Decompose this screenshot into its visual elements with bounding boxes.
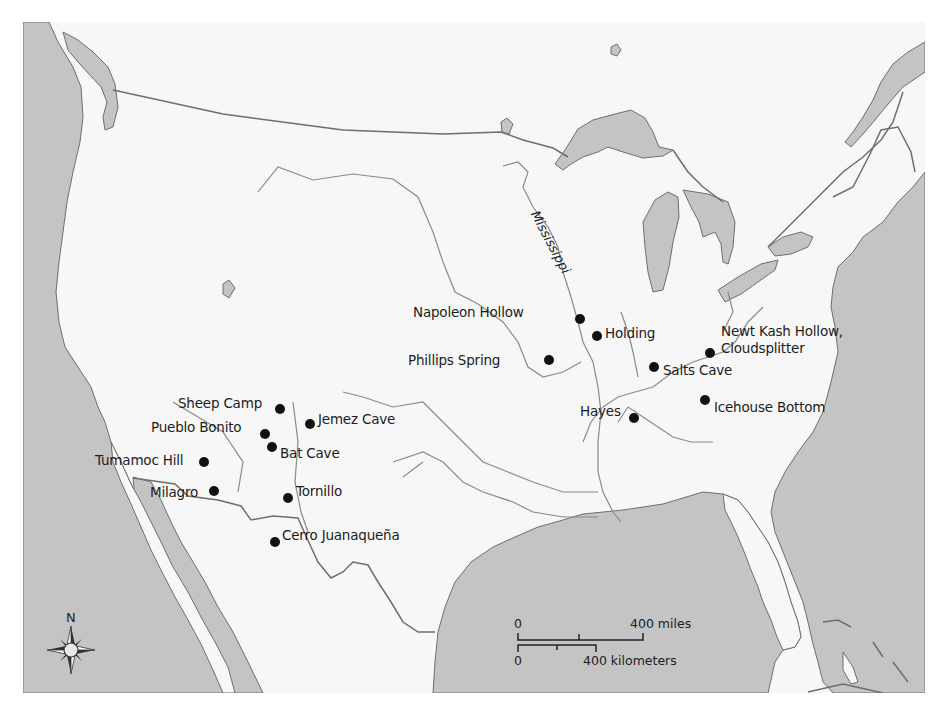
site-marker-salts-cave[interactable] [649,362,659,372]
site-label-newt-kash-hollow: Newt Kash Hollow, [721,324,843,339]
scale-km-zero: 0 [514,653,522,668]
site-marker-jemez-cave[interactable] [305,419,315,429]
site-label-jemez-cave: Jemez Cave [318,412,395,427]
site-label-holding: Holding [605,326,655,341]
site-marker-cerro-juanaquena[interactable] [270,537,280,547]
site-label-hayes: Hayes [580,404,621,419]
scale-km-label: 400 kilometers [583,653,677,668]
site-marker-hayes[interactable] [629,413,639,423]
site-marker-milagro[interactable] [209,486,219,496]
site-marker-tornillo[interactable] [283,493,293,503]
site-marker-holding[interactable] [592,331,602,341]
site-label-sheep-camp: Sheep Camp [178,396,262,411]
site-marker-icehouse-bottom[interactable] [700,395,710,405]
site-marker-bat-cave[interactable] [267,442,277,452]
site-label-milagro: Milagro [150,485,198,500]
map-frame: Mississippi Napoleon Hollow Holding Newt… [23,22,925,693]
site-label-tumamoc-hill: Tumamoc Hill [95,453,183,468]
site-label-cloudsplitter: Cloudsplitter [721,341,805,356]
site-label-phillips-spring: Phillips Spring [408,353,500,368]
site-label-icehouse-bottom: Icehouse Bottom [714,400,825,415]
site-label-cerro-juanaquena: Cerro Juanaqueña [282,528,400,543]
scale-miles-zero: 0 [514,616,522,631]
site-marker-napoleon-hollow[interactable] [575,314,585,324]
site-marker-tumamoc-hill[interactable] [199,457,209,467]
compass-north-label: N [66,610,76,625]
site-label-napoleon-hollow: Napoleon Hollow [413,305,524,320]
site-label-tornillo: Tornillo [296,484,342,499]
site-label-bat-cave: Bat Cave [280,446,340,461]
site-marker-newt-kash-hollow[interactable] [705,348,715,358]
site-marker-pueblo-bonito[interactable] [260,429,270,439]
site-marker-phillips-spring[interactable] [544,355,554,365]
scale-miles-label: 400 miles [630,616,691,631]
site-label-salts-cave: Salts Cave [663,363,732,378]
site-label-pueblo-bonito: Pueblo Bonito [151,420,241,435]
site-marker-sheep-camp[interactable] [275,404,285,414]
